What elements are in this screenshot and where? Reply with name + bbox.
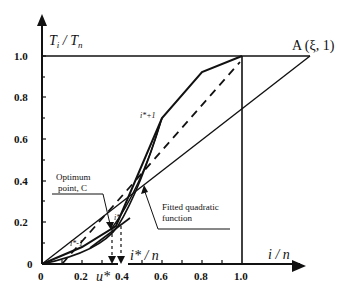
x-axis-arrow-icon <box>292 260 306 272</box>
fitted-label-2: function <box>162 213 192 223</box>
i-star-plus-label: i*+1 <box>140 111 156 120</box>
y-axis-label: Ti / Tn <box>49 33 83 50</box>
y-tick-0: 0 <box>27 258 33 270</box>
fitted-label-1: Fitted quadratic <box>162 202 219 212</box>
y-tick-0.8: 0.8 <box>14 91 28 103</box>
point-a-label: A (ξ, 1) <box>292 38 335 54</box>
y-tick-0.2: 0.2 <box>14 216 28 228</box>
x-tick-0.2: 0.2 <box>74 270 88 282</box>
u-star-arrow-icon <box>108 256 116 264</box>
i-star-minus-label: i*-1 <box>70 239 83 248</box>
piecewise-curve <box>42 56 242 264</box>
line-to-a <box>42 56 310 264</box>
y-tick-0.4: 0.4 <box>14 175 28 187</box>
y-tick-0.6: 0.6 <box>14 133 28 145</box>
y-tick-1.0: 1.0 <box>14 50 28 62</box>
x-axis-label: i / n <box>268 247 290 262</box>
optimum-label-1: Optimum <box>56 172 91 182</box>
x-tick-0.8: 0.8 <box>194 270 208 282</box>
u-star-label: u* <box>96 269 110 284</box>
x-tick-0.6: 0.6 <box>154 270 168 282</box>
i-star-arrow-icon <box>117 256 125 264</box>
dashed-tangent-line <box>62 62 240 264</box>
x-tick-0.4: 0.4 <box>115 270 129 282</box>
optimum-label-2: point, C <box>58 183 87 193</box>
y-axis-arrow-icon <box>37 14 47 26</box>
x-tick-1.0: 1.0 <box>234 270 248 282</box>
i-star-label: i* <box>114 213 120 222</box>
diagram: 1.0 0.8 0.6 0.4 0.2 0 0 0.2 0.4 0.6 0.8 … <box>0 0 359 300</box>
x-tick-0: 0 <box>38 270 44 282</box>
i-star-n-label: i* / n <box>130 248 159 263</box>
